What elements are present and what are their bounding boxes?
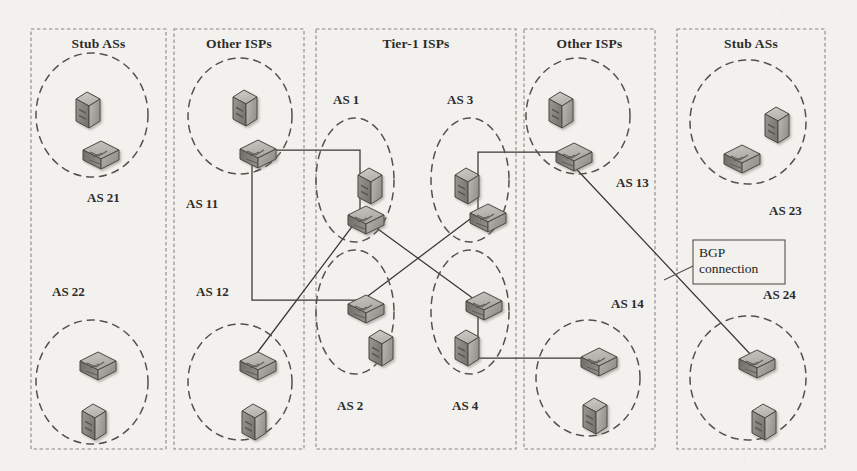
host-icon-h4: [455, 330, 479, 366]
as-ellipses-layer: [36, 53, 806, 444]
panels-layer: [31, 29, 825, 449]
host-icon-h1: [358, 168, 382, 204]
router-icon-r22: [80, 352, 116, 380]
panel-title-isp-left: Other ISPs: [174, 36, 304, 52]
router-icon-r14: [581, 348, 617, 376]
router-icon-r13: [556, 143, 592, 171]
links-layer: [95, 150, 752, 361]
network-topology-figure: Stub ASsOther ISPsTier-1 ISPsOther ISPsS…: [0, 0, 857, 471]
as-label-as12: AS 12: [196, 284, 229, 300]
nodes-layer: [76, 90, 789, 440]
as-label-as13: AS 13: [616, 175, 649, 191]
as-label-as4: AS 4: [452, 398, 478, 414]
as-label-as1: AS 1: [333, 92, 359, 108]
bgp-link-l-r3-r13: [478, 152, 568, 213]
host-icon-h12: [242, 404, 266, 440]
panel-isp-left: [174, 29, 304, 449]
host-icon-h13: [549, 92, 573, 128]
panel-isp-right: [524, 29, 655, 449]
as-boundary-as24: [690, 316, 806, 440]
as-label-as2: AS 2: [337, 398, 363, 414]
as-label-as3: AS 3: [447, 92, 473, 108]
router-icon-r4: [466, 292, 502, 320]
router-icon-r3: [470, 204, 506, 232]
bgp-callout-line1: BGP: [699, 245, 758, 261]
as-label-as11: AS 11: [186, 196, 218, 212]
router-icon-r24: [739, 350, 775, 378]
host-icon-h22: [82, 404, 106, 440]
host-icon-h2: [369, 330, 393, 366]
panel-title-stub-right: Stub ASs: [677, 36, 825, 52]
host-icon-h11: [233, 90, 257, 126]
bgp-callout-label: BGP connection: [699, 245, 758, 277]
host-icon-h23: [765, 107, 789, 143]
host-icon-h14: [583, 398, 607, 434]
as-label-as14: AS 14: [611, 296, 644, 312]
as-label-as21: AS 21: [87, 190, 120, 206]
as-label-as24: AS 24: [763, 287, 796, 303]
diagram-canvas: [0, 0, 857, 471]
bgp-callout-line2: connection: [699, 261, 758, 277]
router-icon-r21: [83, 141, 119, 169]
panel-title-tier1: Tier-1 ISPs: [316, 36, 516, 52]
panel-title-isp-right: Other ISPs: [524, 36, 655, 52]
host-icon-h3: [455, 168, 479, 204]
as-boundary-as12: [188, 324, 292, 440]
host-icon-h24: [752, 404, 776, 440]
router-icon-r23: [724, 145, 760, 173]
router-icon-r2: [348, 295, 384, 323]
as-label-as22: AS 22: [52, 284, 85, 300]
panel-stub-left: [31, 29, 166, 449]
as-label-as23: AS 23: [769, 203, 802, 219]
host-icon-h21: [76, 92, 100, 128]
panel-title-stub-left: Stub ASs: [31, 36, 166, 52]
panel-stub-right: [677, 29, 825, 449]
bgp-link-l-r12-r1: [254, 216, 360, 357]
router-icon-r12: [240, 352, 276, 380]
